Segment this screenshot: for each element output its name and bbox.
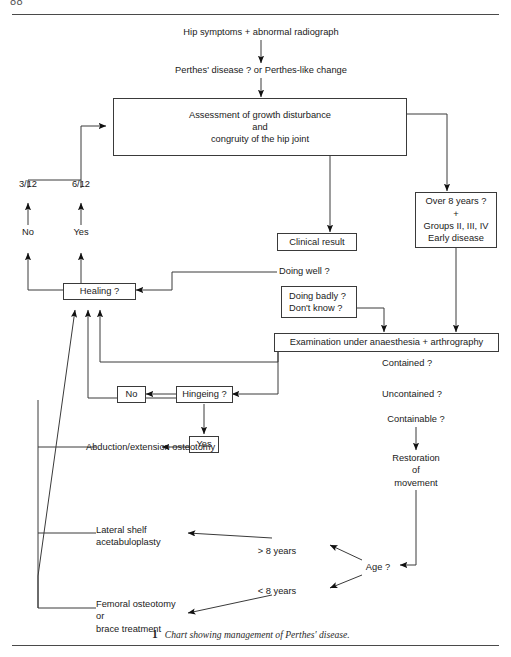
edge-contained-healing [100,310,278,362]
edge-assessment-over8 [407,114,447,191]
node-restoration: Restoration of movement [382,452,450,489]
node-under-8-years-label: < 8 years [250,585,304,597]
node-clinical-result: Clinical result [277,233,357,251]
node-assessment: Assessment of growth disturbance and con… [113,98,407,156]
edge-healing-no [28,253,63,290]
node-doing-badly: Doing badly ? Don't know ? [281,286,357,318]
node-yes-healing: Yes [63,226,99,238]
node-lateral-shelf: Lateral shelf acetabuloplasty [96,524,191,549]
edge-over8years-lateralshelf [188,533,272,538]
node-over-8-years-label: > 8 years [250,545,304,557]
node-perthes-disease: Perthes' disease ? or Perthes-like chang… [141,64,381,76]
edge-restoration-age [400,490,416,565]
node-over-8-years: Over 8 years ? + Groups II, III, IV Earl… [415,192,497,248]
edge-uncontained-hingeing [232,352,278,394]
edge-treatments-healing [38,310,75,576]
node-age: Age ? [357,561,399,573]
node-no-hingeing: No [117,386,146,403]
node-healing: Healing ? [63,283,136,300]
node-uncontained: Uncontained ? [382,388,472,400]
node-no-healing: No [10,226,46,238]
node-hip-symptoms: Hip symptoms + abnormal radiograph [151,26,371,38]
edge-doingbadly-examination [357,308,384,332]
node-contained: Contained ? [382,357,462,369]
edge-bracket-assessment [81,126,106,180]
spine-femoral [38,576,96,608]
edge-nohingeing-healing [88,310,190,398]
node-doing-well: Doing well ? [279,265,359,277]
node-hingeing: Hingeing ? [176,386,233,403]
node-examination: Examination under anaesthesia + arthrogr… [274,333,499,352]
edge-age-over8years [330,545,362,560]
figure-page: 88 [0,0,511,657]
edge-age-under8years [330,575,362,588]
figure-caption: 1Chart showing management of Perthes' di… [152,628,350,640]
node-3-12: 3/12 [8,178,48,190]
edge-clinicalresult-doingwell [155,272,277,290]
figure-caption-text: Chart showing management of Perthes' dis… [165,629,350,640]
node-6-12: 6/12 [61,178,101,190]
node-abduction-osteotomy: Abduction/extension osteotomy [86,441,238,453]
node-containable: Containable ? [380,413,452,425]
figure-number: 1 [152,628,158,640]
